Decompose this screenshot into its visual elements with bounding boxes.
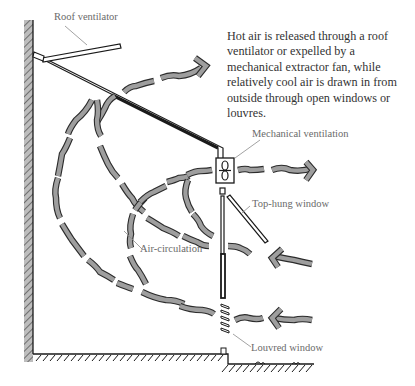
right-wall (220, 188, 225, 298)
label-top-hung-window: Top-hung window (252, 199, 329, 210)
left-wall (24, 20, 33, 362)
label-roof-ventilator: Roof ventilator (54, 12, 118, 23)
label-mechanical-ventilation: Mechanical ventilation (252, 129, 349, 140)
label-louvred-window: Louvred window (251, 343, 323, 354)
diagram-caption: Hot air is released through a roof venti… (227, 29, 413, 121)
louvred-window (221, 304, 229, 333)
ventilation-diagram: Roof ventilator Mechanical ventilation T… (0, 0, 415, 386)
roof-ventilator (33, 44, 121, 62)
label-air-circulation: Air-circulation (140, 244, 202, 255)
extractor-fan (216, 158, 234, 183)
